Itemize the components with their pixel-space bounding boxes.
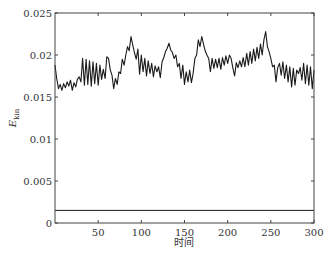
y-tick-label: 0.015 [23,92,52,103]
line-chart: 50100150200250300 00.0050.010.0150.020.0… [0,0,327,259]
axes-frame [55,13,314,223]
x-axis-label: 时间 [174,236,194,248]
series-line-kinetic-energy [55,32,314,91]
svg-text:Ekin: Ekin [7,108,21,128]
series-layer [55,32,314,211]
x-tick-label: 100 [132,227,151,238]
x-tick-label: 300 [304,227,323,238]
x-tick-label: 50 [92,227,105,238]
x-tick-label: 200 [218,227,237,238]
x-axis-ticks: 50100150200250300 [92,13,324,238]
y-tick-label: 0.01 [30,134,52,145]
y-tick-label: 0.025 [23,8,52,19]
y-axis-label: Ekin [7,108,21,128]
y-tick-label: 0.005 [23,176,52,187]
y-tick-label: 0.02 [30,50,52,61]
x-tick-label: 250 [261,227,280,238]
y-axis-ticks: 00.0050.010.0150.020.025 [23,8,314,229]
y-tick-label: 0 [46,218,52,229]
y-axis-label-sub: kin [13,108,21,119]
